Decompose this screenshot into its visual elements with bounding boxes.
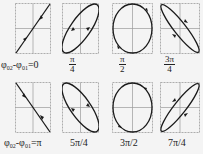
label-phase-0: φ02-φ01=0 bbox=[1, 60, 39, 71]
label-pi-2: π2 bbox=[119, 54, 126, 74]
arrow-icon bbox=[71, 27, 75, 31]
label-7pi-4: 7π/4 bbox=[168, 138, 186, 148]
lissajous-ellipse-positive bbox=[62, 3, 99, 54]
panel-phase-3pi-2 bbox=[112, 82, 153, 133]
label-5pi-4: 5π/4 bbox=[70, 138, 88, 148]
panel-phase-pi-4 bbox=[62, 3, 99, 54]
arrow-icon bbox=[184, 19, 188, 23]
lissajous-line-positive bbox=[15, 3, 51, 54]
lissajous-ellipse-negative bbox=[62, 82, 99, 133]
panel-phase-3pi-4 bbox=[160, 3, 200, 54]
panel-phase-5pi-4 bbox=[62, 82, 99, 133]
lissajous-line-negative bbox=[15, 82, 51, 133]
lissajous-circle bbox=[112, 82, 153, 133]
arrow-icon bbox=[172, 34, 176, 38]
panel-phase-pi-2 bbox=[112, 3, 153, 54]
lissajous-ellipse-positive bbox=[160, 82, 200, 133]
arrow-icon bbox=[86, 27, 90, 31]
label-pi-4: π4 bbox=[69, 54, 76, 74]
lissajous-circle bbox=[112, 3, 153, 54]
label-3pi-4: 3π4 bbox=[164, 54, 175, 74]
panel-phase-pi bbox=[15, 82, 51, 133]
panel-phase-7pi-4 bbox=[160, 82, 200, 133]
label-3pi-2: 3π/2 bbox=[120, 138, 138, 148]
label-phase-pi: φ02-φ01=π bbox=[4, 138, 42, 149]
lissajous-ellipse-negative bbox=[160, 3, 200, 54]
arrow-icon bbox=[184, 113, 188, 117]
arrow-icon bbox=[172, 98, 176, 102]
panel-phase-0 bbox=[15, 3, 51, 54]
